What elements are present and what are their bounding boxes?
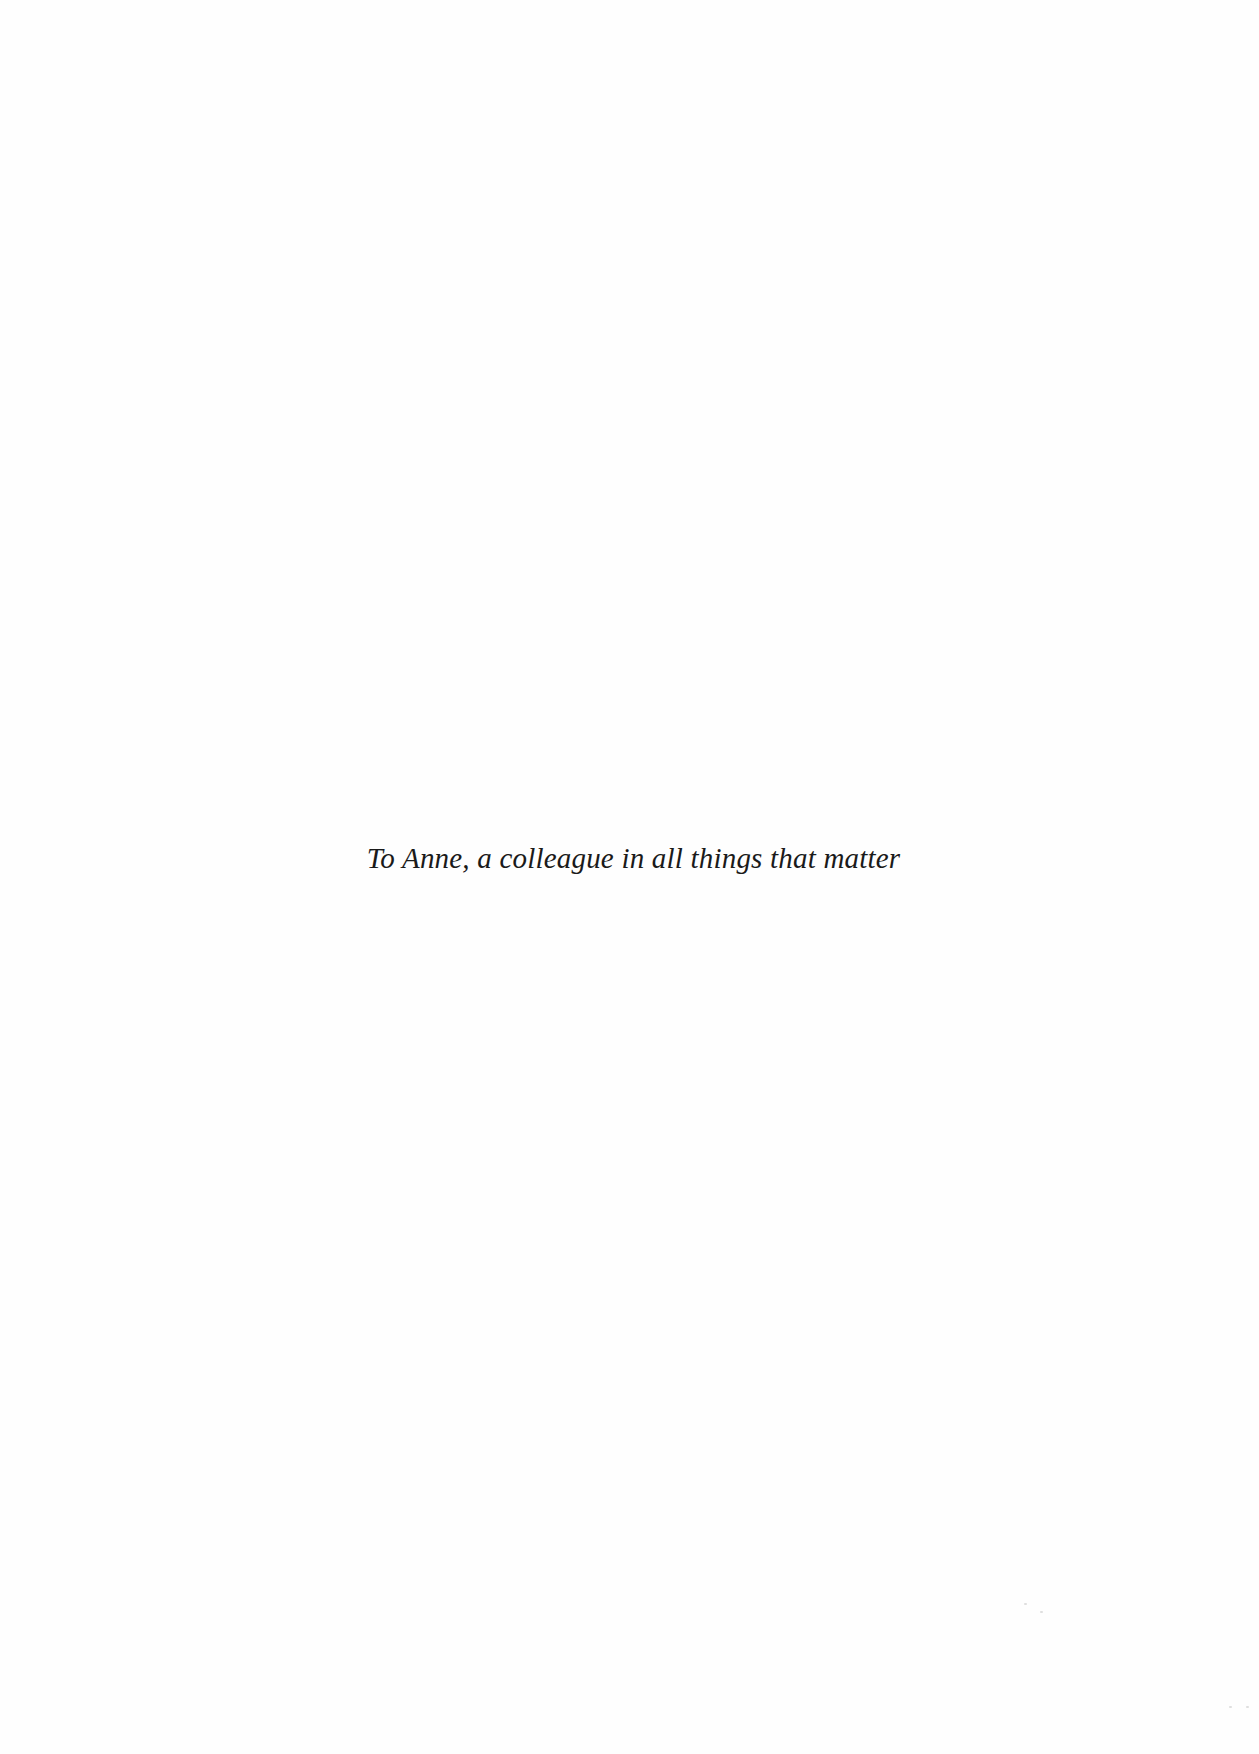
scan-speck bbox=[1024, 1603, 1027, 1605]
dedication-text: To Anne, a colleague in all things that … bbox=[359, 838, 901, 878]
scan-speck bbox=[1229, 1706, 1232, 1708]
scan-speck bbox=[1246, 1706, 1249, 1708]
book-page: To Anne, a colleague in all things that … bbox=[0, 0, 1259, 1754]
scan-speck bbox=[1040, 1611, 1043, 1613]
dedication: To Anne, a colleague in all things that … bbox=[0, 838, 1259, 878]
